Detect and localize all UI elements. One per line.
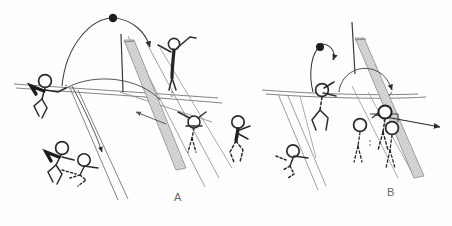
panel-b-net-post (352, 22, 355, 74)
diagram-canvas: A B (0, 0, 452, 226)
panel-b-player-blocker-left (354, 119, 367, 162)
panel-b-player-back-defender (276, 145, 308, 178)
panel-b-player-hitter (312, 82, 336, 130)
panel-b-ball (316, 43, 324, 51)
panel-b-drawing (0, 0, 452, 226)
panel-b-net (352, 22, 424, 178)
panel-b-label: B (387, 186, 395, 198)
panel-a-label: A (174, 191, 182, 203)
